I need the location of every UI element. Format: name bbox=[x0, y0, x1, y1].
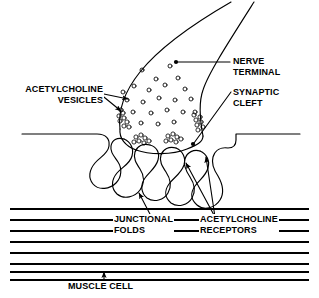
leader-dot-nerve-terminal bbox=[174, 60, 178, 64]
junctional-fold-3 bbox=[166, 148, 200, 205]
label-nerve-terminal: NERVE TERMINAL bbox=[232, 56, 281, 77]
leader-dot-synaptic-cleft bbox=[191, 142, 195, 146]
muscle-membrane-left bbox=[22, 134, 124, 188]
label-acetylcholine-receptors: ACETYLCHOLINE RECEPTORS bbox=[199, 214, 279, 235]
docked-vesicle-clusters bbox=[117, 108, 205, 145]
label-synaptic-cleft: SYNAPTIC CLEFT bbox=[232, 87, 280, 108]
label-junctional-folds: JUNCTIONAL FOLDS bbox=[113, 214, 174, 235]
vesicle-cluster-center bbox=[164, 132, 183, 144]
synaptic-vesicles-free bbox=[121, 64, 197, 126]
vesicle-cluster-lower-left bbox=[132, 133, 151, 145]
leader-synaptic-cleft bbox=[194, 92, 231, 143]
label-acetylcholine-vesicles: ACETYLCHOLINE VESICLES bbox=[6, 84, 104, 105]
vesicle-cluster-right bbox=[192, 113, 205, 132]
vesicle-cluster-left bbox=[117, 108, 131, 129]
neuromuscular-junction-diagram bbox=[0, 0, 319, 298]
label-muscle-cell: MUSCLE CELL bbox=[67, 281, 134, 292]
neuromuscular-junction-figure: ACETYLCHOLINE VESICLES NERVE TERMINAL SY… bbox=[0, 0, 319, 298]
